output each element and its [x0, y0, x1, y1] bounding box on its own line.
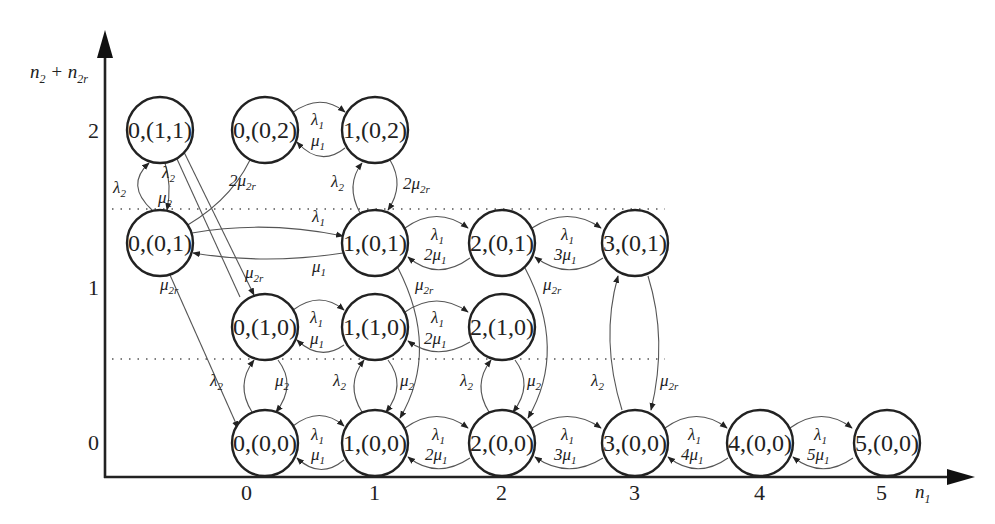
svg-text:5μ1: 5μ1	[807, 445, 830, 466]
svg-text:0,(0,2): 0,(0,2)	[233, 117, 297, 143]
y-tick-0: 0	[88, 430, 99, 455]
svg-text:λ1: λ1	[309, 308, 323, 329]
svg-text:5,(0,0): 5,(0,0)	[855, 430, 919, 456]
svg-text:λ1: λ1	[311, 207, 325, 228]
svg-text:λ1: λ1	[687, 425, 701, 446]
y-tick-1: 1	[88, 275, 99, 300]
svg-text:4μ1: 4μ1	[681, 445, 704, 466]
svg-text:λ1: λ1	[431, 425, 445, 446]
svg-text:2μ1: 2μ1	[424, 245, 447, 266]
svg-text:2μ1: 2μ1	[424, 329, 447, 350]
svg-text:λ2: λ2	[590, 371, 604, 392]
x-tick-2: 2	[496, 480, 507, 505]
state-node-1-10: 1,(1,0)	[342, 294, 408, 360]
x-tick-4: 4	[754, 480, 765, 505]
state-node-2-01: 2,(0,1)	[469, 210, 535, 276]
svg-text:λ1: λ1	[813, 425, 827, 446]
svg-text:μ2r: μ2r	[244, 263, 264, 284]
svg-text:μ1: μ1	[310, 445, 325, 466]
state-node-0-02: 0,(0,2)	[232, 97, 298, 163]
x-tick-5: 5	[876, 480, 887, 505]
x-tick-3: 3	[629, 480, 640, 505]
svg-text:μ2r: μ2r	[659, 371, 679, 392]
svg-text:0,(0,1): 0,(0,1)	[128, 230, 192, 256]
svg-text:0,(1,0): 0,(1,0)	[233, 314, 297, 340]
svg-text:λ1: λ1	[430, 308, 444, 329]
state-node-0-10: 0,(1,0)	[232, 294, 298, 360]
svg-text:λ1: λ1	[310, 425, 324, 446]
svg-text:2μ1: 2μ1	[425, 445, 448, 466]
y-axis-arrowhead-icon	[97, 30, 113, 58]
state-node-2-10: 2,(1,0)	[469, 294, 535, 360]
y-axis-title: n2 + n2r	[30, 61, 88, 86]
svg-text:λ1: λ1	[430, 225, 444, 246]
x-axis-title: n1	[915, 481, 931, 506]
svg-text:2,(0,1): 2,(0,1)	[470, 230, 534, 256]
state-node-1-00: 1,(0,0)	[342, 410, 408, 476]
svg-text:2,(1,0): 2,(1,0)	[470, 314, 534, 340]
svg-text:μ2r: μ2r	[414, 275, 434, 296]
svg-text:μ2r: μ2r	[542, 275, 562, 296]
svg-text:2μ2r: 2μ2r	[403, 174, 431, 195]
svg-text:1,(1,0): 1,(1,0)	[343, 314, 407, 340]
state-node-1-02: 1,(0,2)	[342, 97, 408, 163]
state-node-3-00: 3,(0,0)	[602, 410, 668, 476]
state-node-1-01: 1,(0,1)	[342, 210, 408, 276]
svg-text:μ2r: μ2r	[159, 275, 179, 296]
state-transition-diagram: n2 + n2r n1 2 1 0 0 1 2 3 4 5	[0, 0, 995, 524]
svg-text:2,(0,0): 2,(0,0)	[470, 430, 534, 456]
svg-text:3μ1: 3μ1	[553, 445, 577, 466]
svg-text:μ1: μ1	[310, 131, 325, 152]
svg-text:λ2: λ2	[332, 371, 346, 392]
svg-text:λ2: λ2	[330, 172, 344, 193]
svg-text:μ1: μ1	[311, 257, 326, 278]
state-node-0-01: 0,(0,1)	[127, 210, 193, 276]
state-node-0-11: 0,(1,1)	[127, 97, 193, 163]
svg-text:μ2: μ2	[526, 371, 542, 392]
svg-text:0,(0,0): 0,(0,0)	[233, 430, 297, 456]
svg-text:4,(0,0): 4,(0,0)	[728, 430, 792, 456]
x-axis-arrowhead-icon	[947, 469, 975, 485]
svg-text:0,(1,1): 0,(1,1)	[128, 117, 192, 143]
svg-text:2μ2r: 2μ2r	[229, 171, 257, 192]
svg-text:μ2: μ2	[399, 371, 415, 392]
x-tick-1: 1	[369, 480, 380, 505]
x-axis	[104, 469, 975, 485]
svg-text:λ2: λ2	[459, 371, 473, 392]
rate-labels: λ1 μ1 λ2 μ2 λ2 2μ2r λ2 2μ2r λ1 μ1 λ1 2μ1…	[112, 110, 830, 466]
y-axis	[97, 30, 113, 478]
svg-text:1,(0,2): 1,(0,2)	[343, 117, 407, 143]
svg-text:1,(0,0): 1,(0,0)	[343, 430, 407, 456]
state-node-3-01: 3,(0,1)	[602, 210, 668, 276]
svg-text:μ2: μ2	[157, 188, 173, 209]
state-node-5-00: 5,(0,0)	[854, 410, 920, 476]
svg-text:1,(0,1): 1,(0,1)	[343, 230, 407, 256]
state-node-4-00: 4,(0,0)	[727, 410, 793, 476]
svg-text:μ2: μ2	[274, 371, 290, 392]
svg-text:3μ1: 3μ1	[553, 245, 577, 266]
svg-text:λ1: λ1	[310, 110, 324, 131]
svg-text:μ1: μ1	[309, 329, 324, 350]
state-node-0-00: 0,(0,0)	[232, 410, 298, 476]
svg-text:λ2: λ2	[161, 163, 175, 184]
y-tick-2: 2	[88, 118, 99, 143]
svg-text:3,(0,0): 3,(0,0)	[603, 430, 667, 456]
svg-text:3,(0,1): 3,(0,1)	[603, 230, 667, 256]
svg-text:λ2: λ2	[112, 178, 126, 199]
svg-text:λ2: λ2	[209, 371, 223, 392]
x-tick-0: 0	[241, 480, 252, 505]
svg-text:λ1: λ1	[560, 225, 574, 246]
svg-text:λ1: λ1	[560, 425, 574, 446]
state-node-2-00: 2,(0,0)	[469, 410, 535, 476]
